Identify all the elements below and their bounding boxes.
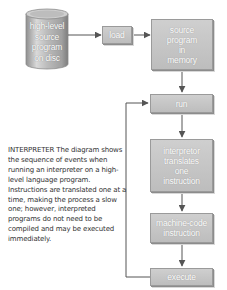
run-label: run bbox=[176, 99, 188, 109]
caption: INTERPRETER The diagram shows the sequen… bbox=[8, 146, 130, 245]
translate-box: interpretor translates one instruction bbox=[150, 139, 213, 192]
disc-label: high-level source program on disc bbox=[26, 18, 68, 66]
run-box: run bbox=[150, 94, 213, 113]
caption-text: The diagram shows the sequence of events… bbox=[8, 146, 126, 243]
execute-label: execute bbox=[167, 272, 195, 282]
execute-box: execute bbox=[150, 268, 213, 286]
source-in-memory-box: source program in memory bbox=[151, 19, 213, 70]
translate-label: interpretor translates one instruction bbox=[163, 146, 200, 186]
machine-label: machine-code instruction bbox=[156, 218, 207, 238]
machine-code-box: machine-code instruction bbox=[150, 213, 213, 243]
memory-label: source program in memory bbox=[167, 25, 197, 65]
load-box: load bbox=[102, 26, 132, 44]
caption-heading: INTERPRETER bbox=[8, 146, 54, 154]
load-label: load bbox=[109, 30, 124, 40]
interpreter-diagram: high-level source program on disc load s… bbox=[0, 0, 227, 290]
